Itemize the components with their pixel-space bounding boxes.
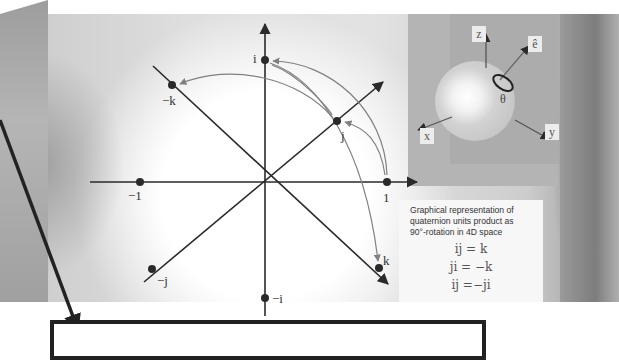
- label-k: k: [383, 254, 390, 267]
- empty-text-frame: [50, 320, 486, 360]
- label-minus-one: −1: [128, 189, 142, 202]
- label-minus-j: −j: [157, 274, 168, 287]
- axis-label-e-hat: ê: [528, 36, 542, 52]
- label-one: 1: [383, 191, 390, 204]
- point-minus-j: [148, 265, 156, 273]
- point-minus-i: [261, 294, 269, 302]
- axis-label-x: x: [420, 128, 434, 144]
- axis-label-y: y: [545, 124, 559, 140]
- point-minus-one: [136, 178, 144, 186]
- caption-line-2: quaternion units product as: [410, 216, 540, 227]
- equation-ij-eq-minus-ji: ij =−ji: [399, 278, 543, 292]
- rotation-arcs: [180, 61, 387, 261]
- label-minus-i: −i: [272, 292, 283, 305]
- k-axis: [153, 66, 388, 284]
- point-j: [333, 117, 341, 125]
- point-k: [375, 264, 383, 272]
- axis-label-z: z: [472, 26, 486, 42]
- point-minus-k: [168, 81, 176, 89]
- equation-ij-eq-k: ij = k: [399, 242, 543, 256]
- label-minus-k: −k: [162, 94, 176, 107]
- label-j: j: [341, 129, 345, 142]
- point-one: [383, 178, 391, 186]
- point-i: [261, 56, 269, 64]
- caption-description: Graphical representation of quaternion u…: [410, 205, 540, 238]
- label-i: i: [253, 52, 257, 65]
- equation-ji-eq-minus-k: ji = −k: [399, 260, 543, 274]
- angle-label-theta: θ: [500, 93, 506, 105]
- caption-line-1: Graphical representation of: [410, 205, 540, 216]
- caption-line-3: 90°-rotation in 4D space: [410, 227, 540, 238]
- pointer-arrow: [0, 120, 78, 330]
